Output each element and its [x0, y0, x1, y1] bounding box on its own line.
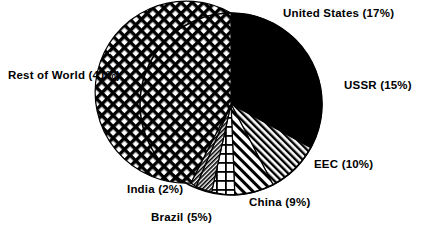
pie-chart-canvas — [0, 0, 422, 237]
pie-slices — [95, 1, 322, 195]
pie-label-india: India (2%) — [127, 183, 183, 196]
scan-artifact-speck — [109, 52, 111, 54]
pie-label-china: China (9%) — [249, 196, 310, 209]
pie-label-rest-of-world: Rest of World (41%) — [8, 69, 120, 82]
pie-label-ussr: USSR (15%) — [344, 79, 412, 92]
pie-chart: United States (17%) USSR (15%) EEC (10%)… — [0, 0, 422, 237]
pie-label-united-states: United States (17%) — [283, 7, 394, 20]
pie-label-brazil: Brazil (5%) — [151, 211, 212, 224]
pie-label-eec: EEC (10%) — [314, 158, 373, 171]
